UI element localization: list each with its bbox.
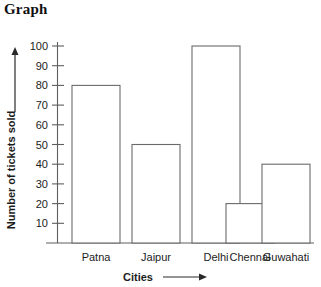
chart-canvas: 100 90 80 70 60 50 40 30 20 10 Patna Jai…	[0, 0, 321, 287]
x-axis-direction-arrow	[163, 274, 207, 281]
y-tick-label: 30	[36, 178, 48, 190]
bar-guwahati[interactable]	[262, 164, 310, 243]
x-axis-title: Cities	[123, 271, 153, 283]
y-tick-label: 80	[36, 79, 48, 91]
y-tick-label: 50	[36, 139, 48, 151]
y-axis-tick-labels: 100 90 80 70 60 50 40 30 20 10	[30, 40, 48, 229]
y-tick-label: 70	[36, 99, 48, 111]
bar-jaipur[interactable]	[132, 145, 180, 244]
x-tick-label-jaipur: Jaipur	[141, 251, 171, 263]
y-tick-label: 100	[30, 40, 48, 52]
x-tick-label-guwahati: Guwahati	[263, 251, 309, 263]
y-tick-label: 40	[36, 158, 48, 170]
x-tick-label-delhi: Delhi	[203, 251, 228, 263]
bar-chart-figure: Graph 100 90 80 70 60 50 40 30	[0, 0, 321, 287]
x-tick-label-patna: Patna	[82, 251, 112, 263]
bars-group	[72, 46, 310, 243]
y-tick-label: 10	[36, 217, 48, 229]
bar-patna[interactable]	[72, 85, 120, 243]
y-tick-label: 60	[36, 119, 48, 131]
y-tick-label: 90	[36, 60, 48, 72]
y-axis-direction-arrow	[12, 47, 19, 112]
x-axis-tick-labels: Patna Jaipur Delhi Chennai Guwahati	[82, 251, 310, 263]
y-tick-label: 20	[36, 198, 48, 210]
y-axis-title: Number of tickets sold	[5, 111, 17, 230]
